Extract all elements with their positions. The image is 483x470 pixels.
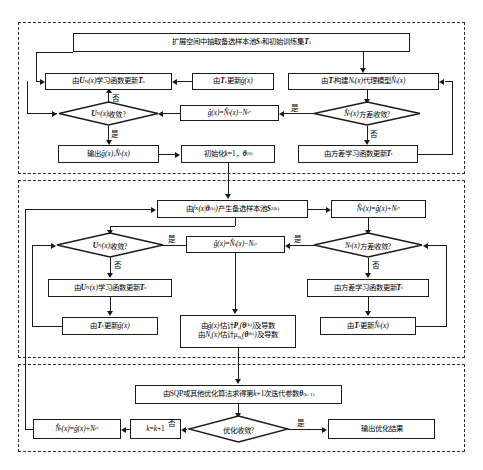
node-s3-sqp: 由SQP或其他优化算法求得第k+1次迭代参数θ(k+1) (135, 385, 342, 404)
conn-s2-g-loop-bottom (32, 326, 62, 327)
label-s3-yes: 是 (297, 417, 305, 428)
arrowhead-s2-diamondvar-to-ghat (285, 243, 290, 249)
conn-start-left-down (36, 52, 37, 82)
conn-pool-branch-stem (235, 218, 236, 226)
conn-s2-ghat-to-estimate (235, 253, 236, 310)
node-s1-ghat-def: ĝ(x)=N̂t(x)−Nt* (180, 105, 279, 121)
arrowhead-init-to-pool (225, 194, 231, 199)
arrowhead-estimate-to-sqp (235, 379, 241, 384)
arrowhead-s2-ts-to-g (107, 311, 113, 316)
conn-s2-nhat-loop-top (428, 245, 446, 246)
conn-s3-nhat-loop-top (25, 209, 152, 210)
node-s3-nhat-def: N̂t(x)=ĝ(x)+Nt* (33, 419, 121, 439)
conn-start-left-top (36, 52, 73, 53)
node-start-box: 扩展空间中抽取备选样本池S1和初始训练集T1 (73, 33, 410, 52)
conn-g-to-ts (177, 81, 192, 82)
conn-pool-to-nhat (308, 209, 326, 210)
flowchart-canvas: 扩展空间中抽取备选样本池S1和初始训练集T1 由UN(x)学习函数更新Ts 由T… (0, 0, 483, 470)
label-s3-no: 否 (168, 417, 176, 428)
node-s1-update-g: 由Ts更新ĝ(x) (192, 73, 274, 90)
node-s2-nhat-def: N̂t(x)=ĝ(x)+Nt* (331, 200, 426, 218)
node-s2-diamond-un: UN(x)收敛? (55, 232, 165, 258)
conn-diamondun-leftup (27, 81, 28, 113)
conn-s2-tt-to-nhat (368, 297, 369, 312)
arrowhead-s3-nhat-loop (151, 207, 156, 213)
arrowhead-s3-diamond-to-output (322, 427, 327, 433)
arrowhead-vartt-into-surrogate (439, 79, 444, 85)
conn-s3-diamond-to-output (288, 429, 323, 430)
conn-s2-un-down (110, 258, 111, 274)
estimate-line-2: 由Nt(x)估计μNt(θ(k))及导数 (198, 331, 277, 341)
node-s2-diamond-var: Nt(x)方差收敛? (312, 232, 424, 258)
node-s1-diamond-var: N̂t(x)方差收敛? (312, 101, 422, 126)
label-s2-var-no: 否 (372, 259, 380, 270)
conn-s2-g-loop-top (32, 245, 52, 246)
conn-estimate-to-sqp (238, 348, 239, 380)
conn-s2-un-yes-h (163, 245, 186, 246)
node-s2-estimate: 由ĝ(x)估计Pf(θ(k))及导数 由Nt(x)估计μNt(θ(k))及导数 (180, 315, 296, 348)
node-s1-build-surrogate: 由Tt构建Nt(x)代理模型N̂t(x) (288, 73, 439, 90)
node-s2-update-nhat: 由Tt更新N̂t(x) (320, 317, 416, 335)
node-s2-update-g: 由Ts更新ĝ(x) (62, 317, 158, 335)
conn-s2-ts-to-g (110, 297, 111, 312)
arrowhead-s2-var-down (365, 273, 371, 278)
conn-s2-g-loop-left (32, 245, 33, 326)
arrowhead-g-to-ts (172, 79, 177, 85)
arrowhead-s2-un-down (107, 273, 113, 278)
node-s2-var-update-tt: 由方差学习函数更新Tt (307, 279, 429, 297)
label-s2-un-no: 否 (114, 259, 122, 270)
label-s2-un-yes: 是 (168, 233, 176, 244)
node-s1-init: 初始化k=1，θ(0) (181, 145, 275, 163)
node-s1-diamond-un: UN(x)收敛? (57, 101, 160, 126)
arrowhead-diamondvar-to-ghat (279, 111, 284, 117)
conn-init-to-pool (228, 163, 229, 195)
node-s2-sample-pool: 由fX(x|θ(k)) 产生备选样本池S2(k) (157, 200, 308, 218)
label-s1-un-yes: 是 (111, 128, 119, 139)
conn-s3-nhat-loop-left (25, 429, 33, 430)
node-s3-output: 输出优化结果 (328, 419, 435, 439)
conn-diamondvar-down (367, 126, 368, 140)
arrowhead-s2-tt-to-nhat (365, 311, 371, 316)
node-s1-update-ts: 由UN(x)学习函数更新Ts (45, 73, 172, 90)
conn-start-to-surrogate (363, 52, 364, 68)
label-s2-var-yes: 是 (294, 233, 302, 244)
conn-vartt-up (452, 81, 453, 154)
conn-ghat-to-diamond-un (163, 113, 180, 114)
conn-pool-branch-top (110, 226, 235, 227)
conn-s2-nhat-loop-bottom (416, 326, 447, 327)
conn-vartt-into-surrogate (445, 81, 452, 82)
node-s1-output: 输出ĝ(x), N̂t(x) (58, 145, 159, 163)
node-s2-ghat-def: ĝ(x)=N̂t(x)−Nt* (186, 236, 285, 253)
conn-s2-diamondvar-to-ghat (290, 245, 314, 246)
arrowhead-s3-increment-to-nhat (121, 427, 126, 433)
node-s2-update-ts: 由UN(x)学习函数更新Ts (48, 279, 172, 297)
conn-vartt-right (418, 154, 453, 155)
label-s1-un-no: 否 (112, 92, 120, 103)
arrowhead-output-to-init (175, 152, 180, 158)
conn-s2-nhat-loop-right (446, 245, 447, 326)
arrowhead-s3-diamond-to-increment (181, 427, 186, 433)
conn-diamondvar-to-ghat (284, 113, 314, 114)
label-s1-var-yes: 是 (291, 102, 299, 113)
node-s3-diamond: 优化收敛? (187, 415, 290, 443)
conn-diamondun-down (108, 126, 109, 140)
node-s1-var-update-tt: 由方差学习函数更新Tt (298, 145, 418, 163)
arrowhead-s2-ghat-to-estimate (232, 309, 238, 314)
conn-s2-var-down (368, 258, 369, 274)
conn-s3-nhat-loop-up (25, 209, 26, 429)
label-s1-var-no: 否 (370, 128, 378, 139)
conn-output-to-init (159, 154, 175, 155)
